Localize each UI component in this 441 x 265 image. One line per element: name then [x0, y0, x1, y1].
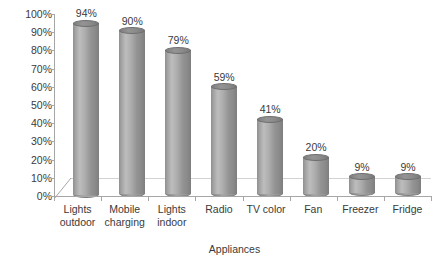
y-axis-tick-label: 80%	[8, 45, 52, 55]
bar-column[interactable]: 20%	[303, 146, 329, 196]
cylinder-body	[119, 31, 145, 195]
bar-data-label: 20%	[306, 142, 327, 153]
x-axis-category-label: Fan	[290, 203, 337, 216]
x-axis-tick-mark	[101, 196, 102, 201]
y-axis-tick-mark	[51, 50, 55, 51]
bar-data-label: 59%	[214, 72, 235, 83]
x-axis-title: Appliances	[0, 243, 441, 255]
cylinder-top-ellipse	[349, 173, 375, 180]
bar-data-label: 41%	[260, 104, 281, 115]
bar-slot: 94%	[54, 14, 101, 196]
bar-chart: 0%10%20%30%40%50%60%70%80%90%100% 94%90%…	[0, 0, 441, 265]
y-axis-tick-label: 10%	[8, 173, 52, 183]
cylinder-top-ellipse	[303, 154, 329, 161]
x-axis-category-labels: Lights outdoorMobile chargingLights indo…	[54, 203, 431, 239]
y-axis-tick-label: 100%	[8, 9, 52, 19]
cylinder-body	[303, 157, 329, 193]
bar-column[interactable]: 90%	[119, 20, 145, 198]
cylinder-body	[211, 87, 237, 194]
y-axis-tick-mark	[51, 69, 55, 70]
cylinder-top-ellipse	[211, 83, 237, 90]
cylinder-body	[73, 23, 99, 194]
cylinder-bar	[257, 118, 283, 197]
bar-column[interactable]: 41%	[257, 108, 283, 197]
y-axis-tick-mark	[51, 160, 55, 161]
x-axis-tick-mark	[290, 196, 291, 201]
bar-slot: 20%	[290, 14, 337, 196]
cylinder-top-ellipse	[73, 20, 99, 27]
cylinder-bar	[395, 176, 421, 196]
y-axis-tick-label: 20%	[8, 155, 52, 165]
x-axis-category-label: Lights outdoor	[54, 203, 101, 228]
x-axis-category-label: Radio	[195, 203, 242, 216]
x-axis-category-label: TV color	[243, 203, 290, 216]
x-axis-tick-mark	[243, 196, 244, 201]
bar-slot: 9%	[337, 14, 384, 196]
x-axis-category-label: Fridge	[384, 203, 431, 216]
x-axis-tick-mark	[384, 196, 385, 201]
y-axis-tick-mark	[51, 32, 55, 33]
bar-slot: 59%	[195, 14, 242, 196]
cylinder-bar	[165, 49, 191, 197]
y-axis-tick-mark	[51, 178, 55, 179]
x-axis-tick-mark	[337, 196, 338, 201]
bar-slot: 90%	[101, 14, 148, 196]
bar-data-label: 94%	[76, 8, 97, 19]
y-axis-tick-label: 40%	[8, 118, 52, 128]
bar-slot: 9%	[384, 14, 431, 196]
y-axis-tick-label: 60%	[8, 82, 52, 92]
y-axis-tick-label: 90%	[8, 27, 52, 37]
y-axis-tick-mark	[51, 87, 55, 88]
bar-slot: 41%	[243, 14, 290, 196]
y-axis-tick-label: 70%	[8, 64, 52, 74]
bar-column[interactable]: 79%	[165, 39, 191, 197]
bar-slot: 79%	[148, 14, 195, 196]
bar-data-label: 90%	[122, 16, 143, 27]
x-axis-category-label: Lights indoor	[148, 203, 195, 228]
cylinder-top-ellipse	[395, 173, 421, 180]
cylinder-body	[165, 50, 191, 194]
x-axis-tick-mark	[431, 196, 432, 201]
bar-data-label: 9%	[354, 162, 369, 173]
y-axis-tick-label: 50%	[8, 100, 52, 110]
bar-data-label: 9%	[400, 162, 415, 173]
cylinder-bar	[211, 86, 237, 197]
y-axis-tick-label: 30%	[8, 136, 52, 146]
x-axis-category-label: Mobile charging	[101, 203, 148, 228]
cylinder-bar	[73, 22, 99, 197]
cylinder-top-ellipse	[165, 47, 191, 54]
bar-column[interactable]: 9%	[395, 166, 421, 196]
y-axis-tick-mark	[51, 141, 55, 142]
cylinder-body	[257, 119, 283, 194]
y-axis-tick-mark	[51, 123, 55, 124]
x-axis-tick-mark	[148, 196, 149, 201]
bar-data-label: 79%	[168, 35, 189, 46]
bar-column[interactable]: 9%	[349, 166, 375, 196]
x-axis-category-label: Freezer	[337, 203, 384, 216]
x-axis-tick-mark	[195, 196, 196, 201]
cylinder-bar	[349, 176, 375, 196]
y-axis-tick-mark	[51, 105, 55, 106]
cylinder-top-ellipse	[119, 27, 145, 34]
y-axis-tick-label: 0%	[8, 191, 52, 201]
x-axis-title-text: Appliances	[209, 243, 260, 255]
bar-column[interactable]: 94%	[73, 12, 99, 197]
plot-area: 94%90%79%59%41%20%9%9%	[54, 14, 431, 196]
cylinder-top-ellipse	[257, 116, 283, 123]
y-axis-tick-labels: 0%10%20%30%40%50%60%70%80%90%100%	[8, 10, 52, 196]
bar-column[interactable]: 59%	[211, 76, 237, 197]
x-axis-tick-mark	[54, 196, 55, 201]
cylinder-bar	[119, 30, 145, 198]
y-axis-tick-mark	[51, 14, 55, 15]
cylinder-bar	[303, 156, 329, 196]
